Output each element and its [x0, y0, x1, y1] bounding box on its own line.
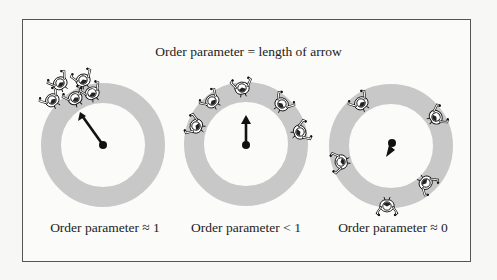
caption-partial: Order parameter < 1 — [176, 220, 316, 236]
panel-incoherent — [329, 89, 449, 216]
caption-incoherent: Order parameter ≈ 0 — [323, 220, 463, 236]
caption-synchronized: Order parameter ≈ 1 — [35, 220, 175, 236]
panel-partial — [183, 76, 313, 196]
order-arrow-icon — [241, 115, 251, 149]
panel-synchronized — [38, 67, 155, 197]
order-arrow-icon — [78, 112, 107, 149]
diagram-canvas — [0, 0, 497, 280]
order-arrow-icon — [386, 139, 396, 157]
